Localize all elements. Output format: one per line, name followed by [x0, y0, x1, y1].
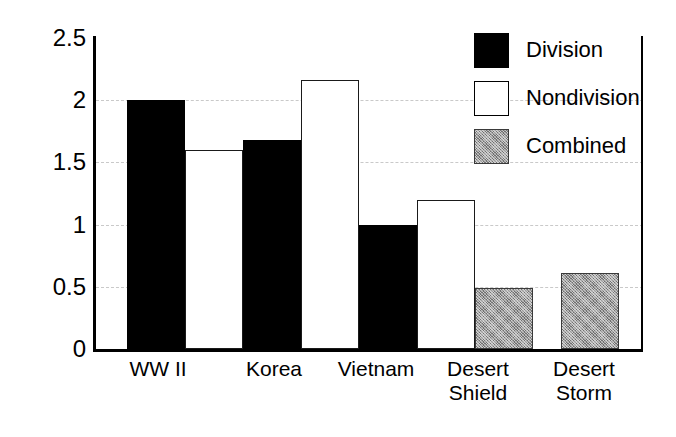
- x-label-desert-storm: Desert Storm: [530, 357, 638, 404]
- y-axis-line: [93, 36, 96, 351]
- y-tick-label: 1: [8, 213, 86, 237]
- bar-desert-storm-combined: [561, 273, 619, 349]
- y-tick-label: 1.5: [8, 150, 86, 174]
- legend-item-nondivision: Nondivision: [474, 74, 640, 122]
- legend: Division Nondivision Combined: [474, 26, 640, 170]
- bar-korea-nondivision: [301, 80, 359, 349]
- legend-item-combined: Combined: [474, 122, 640, 170]
- y-tick-label: 0.5: [8, 275, 86, 299]
- bar-vietnam-nondivision: [417, 200, 475, 349]
- solid-black-swatch-icon: [474, 33, 509, 68]
- x-label-line: Korea: [220, 357, 328, 381]
- y-tick-label: 0: [8, 337, 86, 361]
- x-label-desert-shield: Desert Shield: [424, 357, 532, 404]
- x-label-line: Storm: [530, 381, 638, 405]
- bar-desert-shield-combined: [475, 288, 533, 349]
- gray-hatched-swatch-icon: [474, 129, 509, 164]
- x-label-line: WW II: [104, 357, 212, 381]
- white-outline-swatch-icon: [474, 81, 509, 116]
- x-axis-line: [93, 349, 643, 352]
- x-label-line: Desert: [424, 357, 532, 381]
- x-label-line: Vietnam: [322, 357, 430, 381]
- x-label-vietnam: Vietnam: [322, 357, 430, 381]
- legend-label: Combined: [526, 133, 626, 159]
- plot-right-border: [641, 36, 643, 351]
- bar-vietnam-division: [359, 225, 417, 349]
- x-label-wwii: WW II: [104, 357, 212, 381]
- x-label-line: Desert: [530, 357, 638, 381]
- bar-wwii-division: [127, 100, 185, 349]
- bar-wwii-nondivision: [185, 150, 243, 349]
- y-tick-label: 2: [8, 88, 86, 112]
- x-label-korea: Korea: [220, 357, 328, 381]
- legend-item-division: Division: [474, 26, 640, 74]
- bar-korea-division: [243, 140, 301, 349]
- legend-label: Division: [526, 37, 603, 63]
- x-label-line: Shield: [424, 381, 532, 405]
- y-tick-label: 2.5: [8, 26, 86, 50]
- legend-label: Nondivision: [526, 85, 640, 111]
- y-axis-tick-labels: 2.5 2 1.5 1 0.5 0: [0, 0, 86, 437]
- bar-chart: 2.5 2 1.5 1 0.5 0 WW II Korea Vietnam De…: [0, 0, 676, 437]
